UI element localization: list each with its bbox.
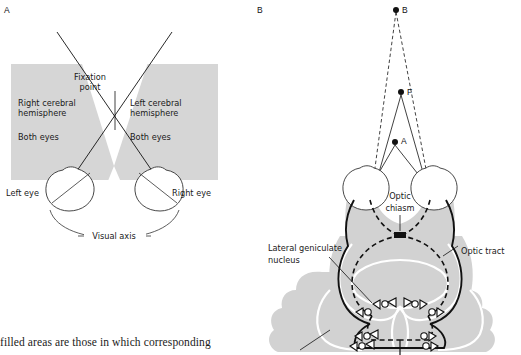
ray-b-right <box>396 12 430 190</box>
left-hemisphere-label-line1: Left cerebral <box>130 98 182 108</box>
right-eye-label: Right eye <box>172 188 211 198</box>
synapse-circle-l1 <box>382 301 388 307</box>
synapse-circle-l2 <box>365 309 371 315</box>
figure-visual-pathways: A Fixation point Right cerebral <box>0 0 521 355</box>
panel-a: A Fixation point Right cerebral <box>4 5 218 300</box>
optic-chiasm-label-line2: chiasm <box>385 203 414 213</box>
left-eye-label: Left eye <box>6 188 39 198</box>
point-b-label: B <box>402 5 408 15</box>
right-both-eyes-label: Both eyes <box>18 132 59 142</box>
panel-b-left-eyeball <box>343 166 389 210</box>
point-a-dot <box>392 139 398 145</box>
left-hemisphere-label-line2: hemisphere <box>130 108 178 118</box>
visual-axis-label: Visual axis <box>92 231 135 241</box>
synapse-circle-r4 <box>423 343 429 349</box>
fixation-point-label-line2: point <box>80 82 102 92</box>
synapse-circle-l4 <box>359 343 365 349</box>
right-hemisphere-label-line1: Right cerebral <box>18 98 76 108</box>
optic-chiasm-marker <box>394 232 406 238</box>
point-a-label: A <box>401 136 407 146</box>
fixation-point-label-line1: Fixation <box>74 72 106 82</box>
panel-b-right-eye <box>411 166 457 210</box>
lateral-geniculate-label-line2: nucleus <box>268 255 300 265</box>
left-both-eyes-label: Both eyes <box>130 132 171 142</box>
panel-b-right-eyeball <box>411 166 457 210</box>
panel-a-letter: A <box>4 5 10 15</box>
right-hemisphere-label-line2: hemisphere <box>18 108 66 118</box>
projection-rays <box>370 12 430 190</box>
left-eye-group <box>46 167 94 211</box>
optic-chiasm-label-line1: Optic <box>389 191 411 201</box>
synapse-circle-r2 <box>429 309 435 315</box>
figure-caption: filled areas are those in which correspo… <box>0 336 300 348</box>
panel-b: B B F A <box>257 5 505 355</box>
point-f-dot <box>398 89 404 95</box>
synapse-circle-l3 <box>364 333 370 339</box>
synapse-circle-r1 <box>412 301 418 307</box>
panel-b-left-eye <box>343 166 389 210</box>
optic-tract-label: Optic tract <box>461 246 505 256</box>
lateral-geniculate-label-line1: Lateral geniculate <box>268 243 342 253</box>
panel-b-letter: B <box>257 5 263 15</box>
synapse-circle-r3 <box>421 333 427 339</box>
